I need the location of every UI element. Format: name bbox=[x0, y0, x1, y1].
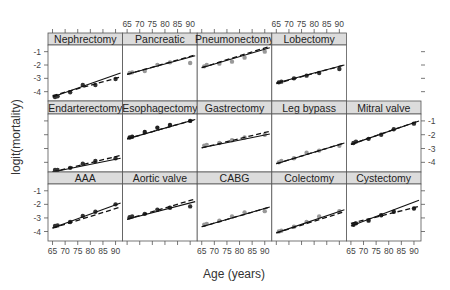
strip-label: CABG bbox=[220, 172, 250, 184]
strip-label: AAA bbox=[75, 172, 96, 184]
panel-cabg: CABG bbox=[197, 172, 272, 242]
panel-colectomy: Colectomy bbox=[272, 172, 347, 242]
plot-area bbox=[48, 184, 123, 241]
x-tick-label: 70 bbox=[60, 246, 70, 256]
y-tick-label: -3 bbox=[428, 144, 436, 154]
x-tick-label: 65 bbox=[197, 246, 207, 256]
x-tick-label: 80 bbox=[384, 246, 394, 256]
lattice-chart: NephrectomyPancreaticPneumonectomyLobect… bbox=[0, 0, 450, 290]
x-tick-label: 85 bbox=[247, 246, 257, 256]
y-tick-label: -2 bbox=[33, 199, 41, 209]
y-tick-label: -1 bbox=[33, 186, 41, 196]
panel-endarterectomy: Endarterectomy bbox=[48, 101, 123, 172]
strip-label: Leg bypass bbox=[282, 102, 336, 114]
panel-leg-bypass: Leg bypass bbox=[272, 101, 347, 172]
panel-pancreatic: Pancreatic bbox=[123, 33, 198, 102]
y-tick-label: -4 bbox=[428, 157, 436, 167]
x-tick-label: 80 bbox=[86, 246, 96, 256]
strip-label: Colectomy bbox=[284, 172, 334, 184]
x-tick-label: 75 bbox=[148, 19, 158, 29]
x-tick-label: 75 bbox=[222, 246, 232, 256]
strip-label: Pancreatic bbox=[135, 33, 185, 45]
panel-lobectomy: Lobectomy bbox=[272, 33, 347, 102]
plot-area bbox=[272, 45, 347, 101]
data-point bbox=[263, 209, 267, 213]
strip-label: Pneumonectomy bbox=[195, 33, 275, 45]
plot-area bbox=[197, 184, 272, 241]
panel-esophagectomy: Esophagectomy bbox=[122, 101, 198, 172]
x-tick-label: 85 bbox=[98, 246, 108, 256]
y-tick-label: -3 bbox=[33, 213, 41, 223]
data-point bbox=[188, 204, 192, 208]
strip-label: Esophagectomy bbox=[122, 102, 198, 114]
x-tick-label: 65 bbox=[346, 246, 356, 256]
x-tick-label: 75 bbox=[73, 246, 83, 256]
x-tick-label: 90 bbox=[335, 19, 345, 29]
y-tick-label: -3 bbox=[33, 73, 41, 83]
panel-pneumonectomy: Pneumonectomy bbox=[195, 33, 275, 102]
strip-label: Lobectomy bbox=[283, 33, 335, 45]
x-tick-label: 75 bbox=[297, 19, 307, 29]
plot-area bbox=[272, 114, 347, 172]
data-point bbox=[337, 67, 341, 71]
strip-label: Endarterectomy bbox=[48, 102, 123, 114]
panel-nephrectomy: Nephrectomy bbox=[48, 33, 123, 102]
y-tick-label: -4 bbox=[33, 87, 41, 97]
panel-cystectomy: Cystectomy bbox=[346, 172, 421, 242]
x-tick-label: 75 bbox=[371, 246, 381, 256]
x-tick-label: 70 bbox=[284, 19, 294, 29]
x-tick-label: 90 bbox=[260, 246, 270, 256]
plot-area bbox=[48, 114, 123, 172]
panel-grid: NephrectomyPancreaticPneumonectomyLobect… bbox=[48, 33, 421, 242]
x-tick-label: 80 bbox=[160, 19, 170, 29]
x-tick-label: 80 bbox=[235, 246, 245, 256]
x-tick-label: 70 bbox=[135, 19, 145, 29]
y-tick-label: -1 bbox=[428, 116, 436, 126]
y-tick-label: -1 bbox=[33, 47, 41, 57]
x-tick-label: 65 bbox=[48, 246, 58, 256]
x-tick-label: 90 bbox=[185, 19, 195, 29]
panel-aaa: AAA bbox=[48, 172, 123, 242]
y-tick-label: -2 bbox=[428, 130, 436, 140]
y-tick-label: -4 bbox=[33, 227, 41, 237]
x-tick-label: 85 bbox=[322, 19, 332, 29]
strip-label: Nephrectomy bbox=[54, 33, 117, 45]
plot-area bbox=[346, 184, 421, 241]
x-axis-title: Age (years) bbox=[203, 267, 265, 281]
plot-area bbox=[197, 114, 272, 172]
x-tick-label: 90 bbox=[111, 246, 121, 256]
data-point bbox=[188, 61, 192, 65]
strip-label: Aortic valve bbox=[133, 172, 187, 184]
plot-area bbox=[48, 45, 123, 101]
x-tick-label: 90 bbox=[409, 246, 419, 256]
panel-mitral-valve: Mitral valve bbox=[346, 101, 421, 172]
strip-label: Cystectomy bbox=[356, 172, 412, 184]
plot-area bbox=[197, 45, 272, 101]
plot-area bbox=[123, 184, 198, 241]
panel-aortic-valve: Aortic valve bbox=[123, 172, 198, 242]
y-axis-title: logit(mortality) bbox=[9, 99, 23, 174]
x-tick-label: 65 bbox=[272, 19, 282, 29]
strip-label: Gastrectomy bbox=[205, 102, 265, 114]
strip-label: Mitral valve bbox=[357, 102, 410, 114]
data-point bbox=[230, 59, 234, 63]
y-tick-label: -2 bbox=[33, 60, 41, 70]
x-tick-label: 70 bbox=[210, 246, 220, 256]
x-tick-label: 85 bbox=[173, 19, 183, 29]
x-tick-label: 85 bbox=[397, 246, 407, 256]
x-tick-label: 80 bbox=[309, 19, 319, 29]
panel-gastrectomy: Gastrectomy bbox=[197, 101, 272, 172]
x-tick-label: 70 bbox=[359, 246, 369, 256]
x-tick-label: 65 bbox=[122, 19, 132, 29]
data-point bbox=[242, 55, 246, 59]
